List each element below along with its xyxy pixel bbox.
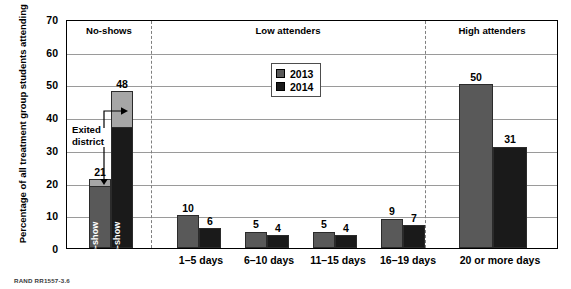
x-tick-11-15-days: 11–15 days [300, 254, 376, 266]
y-tick-0: 0 [30, 243, 58, 255]
bar-value-20-or-more-days-2013: 50 [456, 71, 496, 83]
bar-11-15-days-2014[interactable] [335, 235, 357, 248]
x-tick-1-5-days: 1–5 days [166, 254, 236, 266]
bar-1-5-days-2014[interactable] [199, 228, 221, 248]
x-tick-16-19-days: 16–19 days [370, 254, 446, 266]
y-tick-50: 50 [30, 79, 58, 91]
bar-11-15-days-2013[interactable] [313, 232, 335, 248]
bar-inner-label-no-show-2013: No-show [90, 222, 100, 261]
legend-swatch-2013 [276, 69, 285, 78]
exited-district-line-2: district [72, 136, 104, 148]
bar-value-1-5-days-2013: 10 [168, 202, 208, 214]
x-tick-20-or-more-days: 20 or more days [444, 254, 556, 266]
bar-value-20-or-more-days-2014: 31 [490, 133, 530, 145]
chart-legend: 2013 2014 [271, 63, 321, 97]
y-tick-40: 40 [30, 112, 58, 124]
x-tick-6-10-days: 6–10 days [234, 254, 304, 266]
bar-value-1-5-days-2014: 6 [190, 215, 230, 227]
bar-inner-label-no-show-2014: No-show [112, 222, 122, 261]
y-tick-60: 60 [30, 47, 58, 59]
section-header-no-shows: No-shows [67, 25, 151, 36]
exited-district-line-1: Exited [72, 124, 104, 136]
figure-source-note: RAND RR1557-3.6 [14, 277, 70, 284]
legend-item-2013[interactable]: 2013 [276, 67, 313, 80]
y-tick-10: 10 [30, 210, 58, 222]
legend-swatch-2014 [276, 82, 285, 91]
gridline-60 [67, 54, 557, 55]
bar-value-no-shows-2014: 48 [102, 78, 142, 90]
y-tick-20: 20 [30, 178, 58, 190]
exited-district-annotation: Exited district [72, 124, 104, 148]
bar-16-19-days-2014[interactable] [403, 225, 425, 248]
legend-item-2014[interactable]: 2014 [276, 80, 313, 93]
legend-label-2013: 2013 [290, 68, 313, 80]
bar-value-6-10-days-2014: 4 [258, 222, 298, 234]
bar-20-or-more-days-2014[interactable] [493, 147, 527, 248]
bar-20-or-more-days-2013[interactable] [459, 84, 493, 248]
bar-6-10-days-2014[interactable] [267, 235, 289, 248]
section-header-low-attenders: Low attenders [151, 25, 425, 36]
legend-label-2014: 2014 [290, 81, 313, 93]
bar-value-16-19-days-2014: 7 [394, 212, 434, 224]
section-header-high-attenders: High attenders [425, 25, 559, 36]
y-tick-30: 30 [30, 145, 58, 157]
y-axis-title: Percentage of all treatment group studen… [17, 0, 29, 249]
bar-6-10-days-2013[interactable] [245, 232, 267, 248]
y-tick-70: 70 [30, 14, 58, 26]
bar-value-11-15-days-2014: 4 [326, 222, 366, 234]
